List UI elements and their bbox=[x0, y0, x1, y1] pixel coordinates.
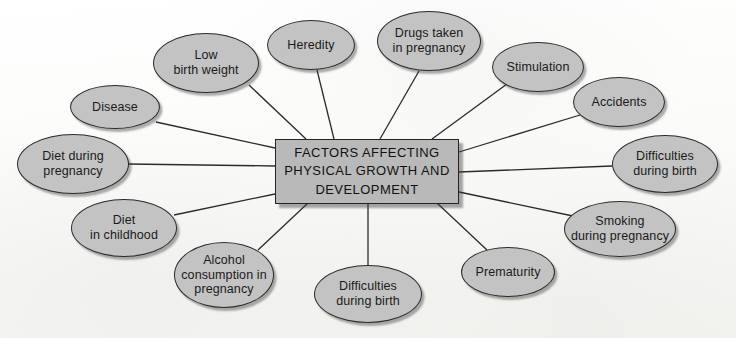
connector-low-birth-weight bbox=[249, 85, 306, 139]
factor-node-difficulties-birth-r[interactable]: Difficultiesduring birth bbox=[612, 135, 718, 193]
center-line-1: FACTORS AFFECTING bbox=[280, 144, 454, 162]
center-line-2: PHYSICAL GROWTH AND bbox=[280, 162, 454, 180]
factor-node-alcohol-pregnancy[interactable]: Alcoholconsumption inpregnancy bbox=[174, 242, 274, 308]
factor-label-line-3: pregnancy bbox=[177, 282, 270, 297]
factor-node-smoking-pregnancy[interactable]: Smokingduring pregnancy bbox=[564, 201, 676, 257]
factor-label-line-2: during birth bbox=[629, 164, 701, 179]
connector-diet-pregnancy bbox=[128, 164, 275, 166]
factor-label-line-1: Prematurity bbox=[471, 265, 544, 280]
factor-label-line-1: Low bbox=[169, 48, 242, 63]
connector-smoking-pregnancy bbox=[459, 192, 573, 216]
center-line-3: DEVELOPMENT bbox=[280, 181, 454, 199]
factor-label-line-1: Accidents bbox=[587, 95, 650, 110]
factor-label-line-1: Alcohol bbox=[177, 253, 270, 268]
factor-label-line-2: in childhood bbox=[86, 228, 162, 243]
factor-label-line-2: consumption in bbox=[177, 268, 270, 283]
factor-label-line-1: Drugs taken bbox=[389, 26, 470, 41]
connector-alcohol-pregnancy bbox=[258, 203, 308, 250]
factor-node-diet-pregnancy[interactable]: Diet duringpregnancy bbox=[17, 134, 129, 194]
factor-label-line-2: in pregnancy bbox=[389, 41, 470, 56]
connector-diet-childhood bbox=[174, 194, 275, 215]
factor-label-line-1: Smoking bbox=[567, 214, 673, 229]
central-concept-box[interactable]: FACTORS AFFECTING PHYSICAL GROWTH AND DE… bbox=[275, 139, 459, 204]
connector-drugs-taken-pregnancy bbox=[380, 71, 419, 139]
connector-disease bbox=[156, 122, 275, 148]
factor-label-line-1: Heredity bbox=[283, 38, 338, 53]
connector-prematurity bbox=[437, 203, 487, 250]
factor-label-line-2: birth weight bbox=[169, 63, 242, 78]
factor-label-line-2: during pregnancy bbox=[567, 229, 673, 244]
factor-node-low-birth-weight[interactable]: Lowbirth weight bbox=[153, 33, 259, 93]
factor-label-line-1: Difficulties bbox=[629, 149, 701, 164]
factor-label-line-1: Stimulation bbox=[503, 60, 574, 75]
factor-label-line-2: pregnancy bbox=[38, 164, 108, 179]
factor-node-difficulties-birth-b[interactable]: Difficultiesduring birth bbox=[314, 265, 422, 323]
factor-node-prematurity[interactable]: Prematurity bbox=[461, 247, 555, 297]
connector-heredity bbox=[317, 70, 334, 139]
connector-difficulties-birth-r bbox=[459, 166, 612, 172]
connector-stimulation bbox=[432, 84, 507, 139]
factor-label-line-1: Disease bbox=[88, 100, 142, 115]
factor-label-line-1: Diet during bbox=[38, 149, 108, 164]
factor-label-line-1: Diet bbox=[86, 213, 162, 228]
diagram-canvas: FACTORS AFFECTING PHYSICAL GROWTH AND DE… bbox=[0, 0, 736, 338]
factor-node-heredity[interactable]: Heredity bbox=[267, 20, 355, 70]
factor-node-accidents[interactable]: Accidents bbox=[573, 77, 665, 127]
factor-node-disease[interactable]: Disease bbox=[70, 85, 160, 129]
factor-node-diet-childhood[interactable]: Dietin childhood bbox=[71, 199, 177, 257]
factor-node-drugs-taken-pregnancy[interactable]: Drugs takenin pregnancy bbox=[377, 11, 481, 71]
connector-accidents bbox=[459, 115, 580, 152]
factor-node-stimulation[interactable]: Stimulation bbox=[492, 42, 584, 92]
factor-label-line-2: during birth bbox=[332, 294, 404, 309]
factor-label-line-1: Difficulties bbox=[332, 279, 404, 294]
